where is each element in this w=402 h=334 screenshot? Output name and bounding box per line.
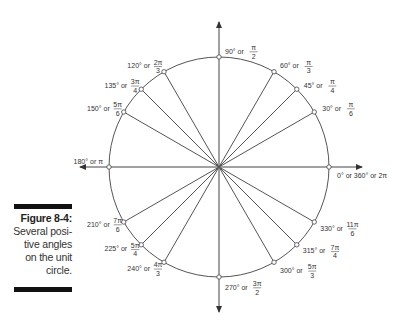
- angle-label-text: 330° or: [320, 225, 343, 232]
- radius-60: [219, 72, 274, 167]
- point-330: [312, 220, 316, 224]
- fraction-denominator: 3: [156, 270, 160, 277]
- radius-300: [219, 167, 274, 262]
- label-240: 240° or4π3: [127, 261, 162, 277]
- point-0: [327, 165, 331, 169]
- angle-label-text: 90° or: [225, 48, 244, 55]
- unit-circle-diagram: 0° or 360° or 2π30° orπ645° orπ460° orπ3…: [0, 0, 402, 334]
- angle-label-text: 210° or: [87, 221, 110, 228]
- point-60: [272, 70, 276, 74]
- fraction-numerator: π: [330, 78, 335, 85]
- fraction-numerator: 5π: [131, 242, 140, 249]
- angle-label-text: 180° or π: [74, 158, 104, 165]
- radius-150: [124, 112, 219, 167]
- label-135: 135° or3π4: [105, 78, 140, 94]
- fraction-numerator: π: [306, 59, 311, 66]
- label-45: 45° orπ4: [304, 78, 337, 94]
- label-120: 120° or2π3: [127, 59, 162, 75]
- radius-210: [124, 167, 219, 222]
- point-180: [107, 165, 111, 169]
- label-210: 210° or7π6: [87, 217, 122, 233]
- caption-line: circle.: [4, 264, 72, 277]
- point-240: [162, 260, 166, 264]
- angle-label-text: 135° or: [105, 82, 128, 89]
- point-135: [139, 87, 143, 91]
- fraction-denominator: 6: [349, 110, 353, 117]
- radius-30: [219, 112, 314, 167]
- label-225: 225° or5π4: [105, 242, 140, 258]
- fraction-denominator: 6: [116, 226, 120, 233]
- fraction-numerator: 3π: [253, 280, 262, 287]
- angle-label-text: 240° or: [127, 265, 150, 272]
- fraction-numerator: 7π: [113, 217, 122, 224]
- point-300: [272, 260, 276, 264]
- fraction-denominator: 6: [351, 230, 355, 237]
- fraction-denominator: 3: [307, 67, 311, 74]
- fraction-numerator: 5π: [113, 101, 122, 108]
- label-270: 270° or3π2: [225, 280, 262, 296]
- fraction-numerator: π: [251, 44, 256, 51]
- label-180: 180° or π: [74, 158, 104, 165]
- label-315: 315° or7π4: [303, 244, 340, 260]
- fraction-denominator: 6: [116, 110, 120, 117]
- point-225: [139, 243, 143, 247]
- fraction-numerator: 7π: [331, 244, 340, 251]
- point-150: [122, 110, 126, 114]
- fraction-denominator: 3: [310, 272, 314, 279]
- fraction-denominator: 4: [133, 250, 137, 257]
- fraction-denominator: 3: [156, 67, 160, 74]
- angle-label-text: 315° or: [303, 247, 326, 254]
- label-300: 300° or5π3: [280, 263, 317, 279]
- caption-line: Several posi-: [4, 225, 72, 238]
- fraction-numerator: 11π: [346, 221, 358, 228]
- fraction-denominator: 2: [252, 53, 256, 60]
- angle-label-text: 120° or: [127, 62, 150, 69]
- point-30: [312, 110, 316, 114]
- label-60: 60° orπ3: [280, 59, 313, 75]
- radius-135: [141, 89, 219, 167]
- caption-bottom-bar: [14, 287, 72, 292]
- caption-top-bar: [14, 204, 72, 209]
- point-270: [217, 275, 221, 279]
- fraction-denominator: 4: [133, 87, 137, 94]
- point-120: [162, 70, 166, 74]
- fraction-denominator: 2: [255, 289, 259, 296]
- label-30: 30° orπ6: [322, 101, 355, 117]
- fraction-numerator: π: [348, 101, 353, 108]
- point-315: [295, 243, 299, 247]
- fraction-numerator: 3π: [131, 78, 140, 85]
- caption-line: on the unit: [4, 251, 72, 264]
- point-90: [217, 55, 221, 59]
- angle-label-text: 45° or: [304, 82, 323, 89]
- angle-label-text: 150° or: [87, 105, 110, 112]
- radius-120: [164, 72, 219, 167]
- fraction-denominator: 4: [333, 252, 337, 259]
- radius-330: [219, 167, 314, 222]
- angle-labels: 0° or 360° or 2π30° orπ645° orπ460° orπ3…: [74, 44, 388, 296]
- radius-45: [219, 89, 297, 167]
- fraction-denominator: 4: [330, 87, 334, 94]
- figure-caption: Several posi- tive angles on the unit ci…: [4, 225, 72, 277]
- angle-label-text: 225° or: [105, 245, 128, 252]
- angle-label-text: 60° or: [280, 62, 299, 69]
- radius-240: [164, 167, 219, 262]
- point-45: [295, 87, 299, 91]
- fraction-numerator: 5π: [308, 263, 317, 270]
- radius-315: [219, 167, 297, 245]
- angle-label-text: 300° or: [280, 267, 303, 274]
- axes: [80, 22, 362, 312]
- point-210: [122, 220, 126, 224]
- angle-label-text: 270° or: [225, 284, 248, 291]
- figure-title: Figure 8-4:: [4, 212, 72, 224]
- label-150: 150° or5π6: [87, 101, 122, 117]
- fraction-numerator: 2π: [154, 59, 163, 66]
- radius-225: [141, 167, 219, 245]
- fraction-numerator: 4π: [154, 261, 163, 268]
- caption-line: tive angles: [4, 238, 72, 251]
- angle-label-text: 0° or 360° or 2π: [337, 172, 387, 179]
- label-330: 330° or11π6: [320, 221, 358, 237]
- label-0: 0° or 360° or 2π: [337, 172, 387, 179]
- angle-label-text: 30° or: [322, 105, 341, 112]
